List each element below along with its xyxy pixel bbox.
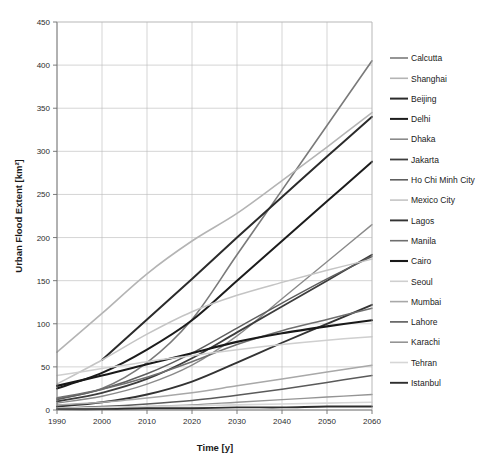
x-tick-label: 1990 [48,417,66,426]
y-tick-label: 200 [37,234,51,243]
y-axis-title: Urban Flood Extent [km²] [13,159,24,272]
legend-label-ho-chi-minh-city: Ho Chi Minh City [411,175,476,185]
x-tick-label: 2030 [228,417,246,426]
x-tick-label: 2060 [363,417,381,426]
y-tick-label: 400 [37,61,51,70]
series-lines [57,61,372,409]
legend-label-istanbul: Istanbul [411,378,441,388]
legend-label-shanghai: Shanghai [411,74,447,84]
legend-label-beijing: Beijing [411,94,437,104]
y-tick-label: 50 [41,363,50,372]
series-line-jakarta [57,255,372,402]
y-tick-label: 100 [37,320,51,329]
legend-label-mumbai: Mumbai [411,297,441,307]
x-tick-label: 2050 [318,417,336,426]
legend-label-jakarta: Jakarta [411,155,439,165]
series-line-dhaka [57,225,372,403]
legend-label-karachi: Karachi [411,337,440,347]
y-tick-label: 300 [37,147,51,156]
x-axis-title: Time [y] [197,442,233,453]
x-tick-label: 2010 [138,417,156,426]
legend-label-mexico-city: Mexico City [411,195,456,205]
legend-label-calcutta: Calcutta [411,53,442,63]
y-tick-label: 150 [37,277,51,286]
legend-label-lahore: Lahore [411,317,438,327]
x-tick-label: 2020 [183,417,201,426]
series-line-shanghai [57,113,372,353]
legend-label-dhaka: Dhaka [411,134,436,144]
urban-flood-extent-line-chart: 050100150200250300350400450 199020002010… [0,0,501,462]
y-tick-label: 350 [37,104,51,113]
legend-label-cairo: Cairo [411,256,432,266]
chart-figure: 050100150200250300350400450 199020002010… [0,0,501,462]
y-axis-tick-labels: 050100150200250300350400450 [37,18,51,415]
series-line-ho-chi-minh-city [57,257,372,400]
y-tick-label: 250 [37,190,51,199]
series-line-seoul [57,337,372,376]
legend-label-tehran: Tehran [411,358,437,368]
axes [53,22,372,414]
legend-label-delhi: Delhi [411,114,430,124]
y-tick-label: 450 [37,18,51,27]
x-axis-tick-labels: 19902000201020202030204020502060 [48,417,381,426]
legend-label-manila: Manila [411,236,436,246]
legend-label-lagos: Lagos [411,216,434,226]
x-tick-label: 2000 [93,417,111,426]
y-tick-label: 0 [46,406,51,415]
series-line-delhi [57,162,372,389]
legend: CalcuttaShanghaiBeijingDelhiDhakaJakarta… [390,53,476,388]
x-tick-label: 2040 [273,417,291,426]
legend-label-seoul: Seoul [411,277,433,287]
series-line-mexico-city [57,259,372,384]
